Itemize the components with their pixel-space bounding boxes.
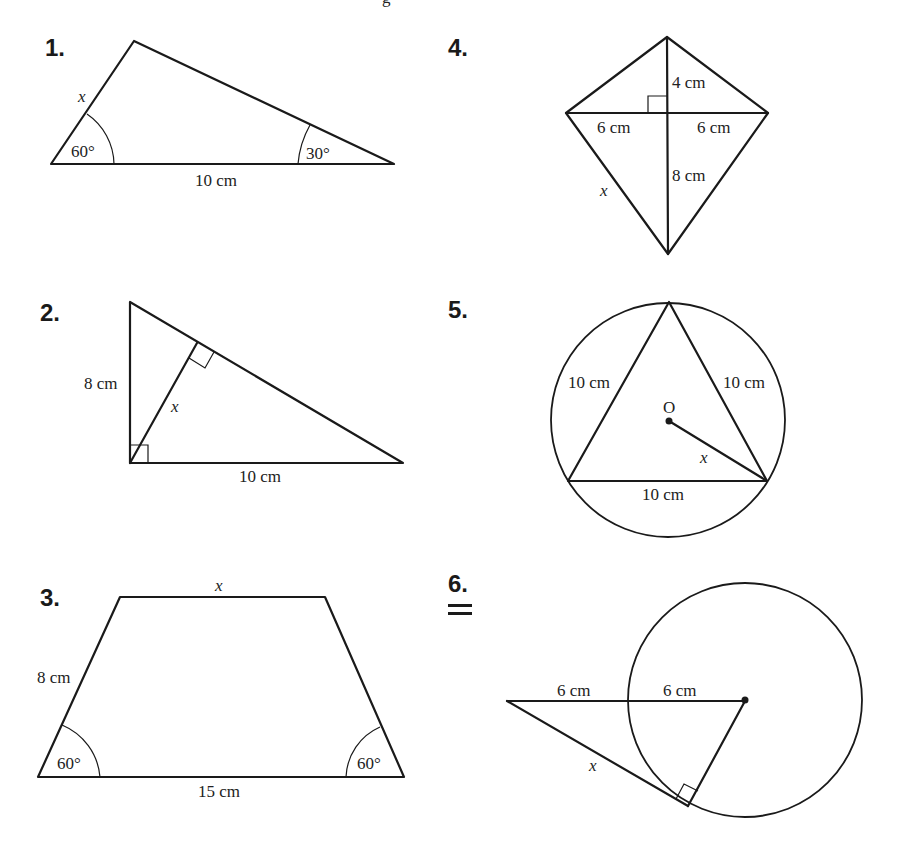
label-8cm: 8 cm (672, 166, 706, 185)
problem-number: 3. (40, 584, 60, 611)
triangle (51, 41, 394, 164)
problem-number: 2. (40, 299, 60, 326)
label-outer-6cm: 6 cm (557, 681, 591, 700)
problem-1: 1. x 60° 30° 10 cm (45, 34, 394, 190)
base-label: 10 cm (195, 171, 237, 190)
double-underline-bottom (448, 612, 472, 615)
label-6cm-right: 6 cm (697, 118, 731, 137)
problem-3: 3. x 8 cm 60° 60° 15 cm (37, 576, 404, 801)
tangent-label-x: x (588, 756, 597, 775)
angle-label-left: 60° (57, 754, 81, 773)
right-angle-marker-altitude (189, 352, 214, 368)
label-inner-6cm: 6 cm (663, 681, 697, 700)
label-left-10cm: 10 cm (568, 373, 610, 392)
altitude-label-x: x (170, 397, 179, 416)
side-label-x: x (77, 87, 86, 106)
center-label: O (663, 398, 675, 417)
problem-2: 2. 8 cm x 10 cm (40, 299, 403, 486)
label-8cm: 8 cm (84, 374, 118, 393)
radius-label-x: x (699, 448, 708, 467)
top-partial-text: g (382, 0, 391, 7)
radius (669, 421, 767, 481)
problem-number: 4. (448, 34, 468, 61)
angle-label-30: 30° (306, 144, 330, 163)
base-label: 10 cm (239, 467, 281, 486)
angle-label-60: 60° (71, 142, 95, 161)
vertical-diagonal (667, 37, 668, 254)
side-label-x: x (599, 181, 608, 200)
problem-6: 6. 6 cm 6 cm x (448, 570, 862, 817)
label-right-10cm: 10 cm (723, 373, 765, 392)
label-base-10cm: 10 cm (642, 485, 684, 504)
problem-5: 5. O 10 cm 10 cm 10 cm x (448, 296, 785, 537)
right-triangle (130, 302, 403, 463)
problem-4: 4. 4 cm 6 cm 6 cm 8 cm x (448, 34, 768, 254)
problem-number: 6. (448, 570, 468, 597)
tangent-line (507, 701, 688, 806)
label-6cm-left: 6 cm (597, 118, 631, 137)
label-8cm: 8 cm (37, 668, 71, 687)
diagram-canvas: g 1. x 60° 30° 10 cm 4. 4 cm 6 cm 6 cm 8… (0, 0, 901, 844)
double-underline-top (448, 604, 472, 607)
label-4cm: 4 cm (672, 73, 706, 92)
base-label: 15 cm (198, 782, 240, 801)
center-point (742, 697, 749, 704)
problem-number: 5. (448, 296, 468, 323)
center-point (666, 418, 673, 425)
top-label-x: x (214, 576, 223, 595)
right-angle-marker (648, 96, 667, 113)
problem-number: 1. (45, 34, 65, 61)
trapezoid (38, 597, 404, 777)
angle-label-right: 60° (357, 754, 381, 773)
